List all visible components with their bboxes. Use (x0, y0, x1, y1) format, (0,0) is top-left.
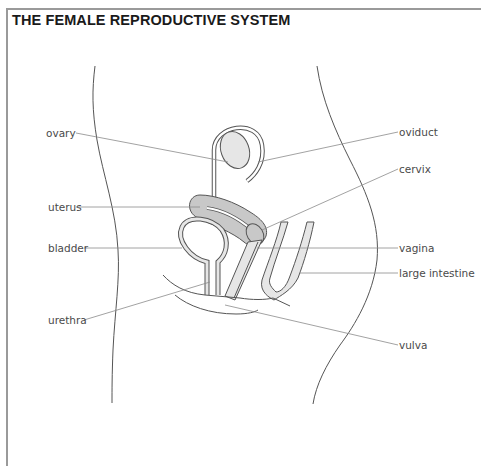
label-oviduct: oviduct (399, 126, 438, 138)
label-bladder: bladder (48, 242, 88, 254)
vulva-curve (175, 295, 258, 314)
label-uterus: uterus (48, 201, 82, 213)
label-large-intestine: large intestine (399, 267, 475, 279)
label-cervix: cervix (399, 163, 431, 175)
large-intestine-shape (261, 222, 314, 300)
label-vulva: vulva (399, 339, 427, 351)
anatomy-illustration (0, 0, 481, 466)
label-urethra: urethra (48, 314, 87, 326)
vagina-shape (225, 240, 262, 300)
body-outline-front (313, 66, 377, 404)
label-vagina: vagina (399, 242, 434, 254)
label-ovary: ovary (46, 127, 76, 139)
body-outline-back (93, 66, 119, 403)
